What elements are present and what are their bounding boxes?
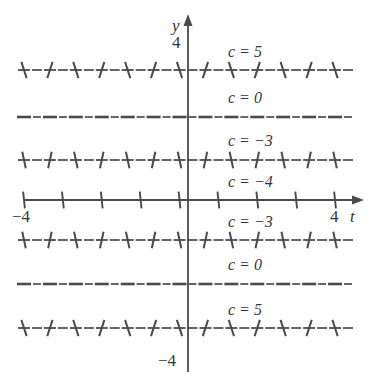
curve-label-c5-bottom: c = 5	[228, 302, 262, 318]
slope-field-rows	[17, 62, 353, 336]
curve-label-c0-top: c = 0	[228, 90, 262, 106]
y-axis-bottom-tick-label: −4	[158, 352, 176, 369]
curve-label-cm3-top: c = −3	[228, 133, 273, 149]
x-axis-arrow-icon	[352, 196, 364, 205]
field-row-c-5	[18, 62, 353, 78]
curve-label-cm3-bottom: c = −3	[228, 214, 273, 230]
y-axis-label: y	[172, 17, 180, 34]
curve-label-c5-top: c = 5	[228, 44, 262, 60]
field-row-c-3	[18, 152, 353, 169]
curve-label-cm4: c = −4	[228, 174, 273, 190]
curve-label-c0-bottom: c = 0	[228, 257, 262, 273]
x-axis-right-tick-label: 4	[330, 208, 339, 225]
field-row-c-3-lower-	[18, 232, 353, 249]
field-row-c-5-lower-	[18, 320, 353, 336]
x-axis-label: t	[350, 208, 355, 225]
y-axis-top-tick-label: 4	[172, 34, 181, 51]
direction-field-figure: y 4 −4 −4 4 t c = 5 c = 0 c = −3 c = −4 …	[0, 0, 374, 390]
plot-canvas	[0, 0, 374, 390]
x-axis-left-tick-label: −4	[12, 208, 30, 225]
y-axis-arrow-icon	[184, 14, 193, 26]
